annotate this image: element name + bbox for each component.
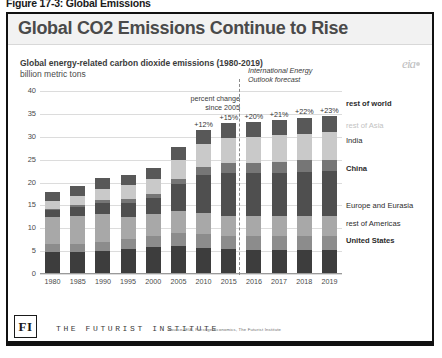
x-axis-tick-label: 2017 [267,277,292,286]
legend-item-rest-of-asia[interactable]: rest of Asia [346,121,384,130]
legend-item-rest-of-world[interactable]: rest of world [346,99,392,108]
bar-segment-rest-of-world [221,123,236,138]
bar-segment-rest-of-world [95,178,110,189]
bar-segment-rest-of-world [196,130,211,144]
y-axis-tick-label: 40 [0,86,36,95]
bar-segment-united-states [121,249,136,273]
bar-segment-india [297,160,312,171]
bar-segment-rest-of-americas [45,244,60,251]
bar-segment-europe-and-eurasia [171,211,186,233]
x-axis-tick-label: 2005 [166,277,191,286]
futurist-institute-logo: FI [14,315,37,338]
bar-2010[interactable] [196,130,211,273]
x-axis-tick-label: 2015 [216,277,241,286]
legend-item-rest-of-americas[interactable]: rest of Americas [346,219,400,228]
bar-segment-rest-of-world [146,168,161,179]
bar-2016[interactable] [246,122,261,273]
bar-segment-rest-of-americas [95,242,110,251]
bar-segment-rest-of-asia [196,144,211,167]
forecast-note: International Energy Outlook forecast [248,67,312,84]
chart-subtitle: billion metric tons [20,69,86,79]
x-axis-tick-label: 1980 [40,277,65,286]
chart-plot-area: 0510152025303540198019851990199520002005… [40,91,342,274]
bar-segment-rest-of-asia [146,179,161,194]
bar-segment-united-states [322,250,337,273]
bar-segment-rest-of-americas [70,244,85,252]
bar-segment-united-states [95,251,110,273]
x-axis-tick-label: 1990 [90,277,115,286]
y-axis-tick-label: 0 [0,269,36,278]
bar-2000[interactable] [146,168,161,273]
bar-segment-europe-and-eurasia [95,214,110,242]
slide-frame: Global CO2 Emissions Continue to Rise Gl… [6,12,434,346]
eia-logo-text: eia [402,56,415,71]
bar-segment-europe-and-eurasia [70,216,85,244]
bar-2018[interactable] [297,118,312,274]
bar-segment-europe-and-eurasia [322,216,337,236]
bar-segment-rest-of-world [272,120,287,136]
footer-rule [8,341,432,344]
figure-caption: Figure 17-3: Global Emissions [6,0,151,9]
bar-segment-india [196,167,211,175]
bar-segment-rest-of-americas [272,236,287,250]
bar-segment-china [297,172,312,216]
legend-item-europe-and-eurasia[interactable]: Europe and Eurasia [346,201,413,210]
bar-segment-rest-of-asia [322,132,337,159]
x-axis-line [40,273,342,274]
bar-segment-rest-of-americas [246,236,261,250]
bar-segment-china [171,184,186,211]
bar-segment-india [272,162,287,173]
bar-segment-rest-of-asia [221,138,236,163]
y-axis-tick-label: 15 [0,200,36,209]
legend-item-india[interactable]: India [346,136,362,145]
x-axis-tick-label: 2016 [241,277,266,286]
bar-segment-rest-of-world [70,186,85,196]
percent-change-label-2019: +23% [314,106,345,115]
y-axis-tick-label: 20 [0,178,36,187]
bar-segment-india [221,163,236,173]
bar-segment-rest-of-americas [322,236,337,250]
bar-segment-europe-and-eurasia [196,213,211,235]
bar-segment-rest-of-asia [95,189,110,200]
source-note: Source: EIA, Prestige Economics, The Fut… [168,327,281,332]
legend-item-china[interactable]: China [346,164,367,173]
bar-segment-united-states [246,250,261,273]
bar-segment-europe-and-eurasia [221,216,236,236]
bar-segment-rest-of-world [121,175,136,185]
chart-panel: Global energy-related carbon dioxide emi… [16,58,426,308]
bar-2015[interactable] [221,123,236,273]
legend-item-united-states[interactable]: United States [346,236,395,245]
bar-2019[interactable] [322,116,337,273]
bar-1995[interactable] [121,175,136,273]
bar-segment-united-states [297,250,312,273]
bar-segment-united-states [70,252,85,273]
bar-segment-rest-of-world [246,122,261,137]
eia-logo-dot [416,62,420,66]
bar-segment-united-states [196,248,211,273]
bar-segment-china [196,175,211,213]
bar-segment-united-states [45,252,60,274]
bar-segment-europe-and-eurasia [297,216,312,236]
y-axis-tick-label: 5 [0,246,36,255]
bar-segment-rest-of-asia [246,137,261,163]
bar-segment-rest-of-asia [297,134,312,161]
bar-2005[interactable] [171,147,186,273]
bar-segment-rest-of-world [297,118,312,134]
bar-segment-europe-and-eurasia [246,216,261,236]
bar-segment-china [221,173,236,216]
bar-segment-rest-of-americas [196,234,211,248]
bar-1980[interactable] [45,192,60,273]
bar-segment-rest-of-asia [121,185,136,199]
x-axis-tick-label: 1995 [116,277,141,286]
bar-segment-united-states [221,249,236,273]
bar-segment-india [322,160,337,172]
x-axis-tick-label: 2018 [292,277,317,286]
y-axis-tick-label: 10 [0,223,36,232]
bar-segment-china [70,207,85,216]
bar-2017[interactable] [272,120,287,273]
y-axis-tick-label: 35 [0,109,36,118]
bar-1990[interactable] [95,178,110,273]
bar-1985[interactable] [70,186,85,273]
chart-title: Global energy-related carbon dioxide emi… [20,58,263,68]
bar-segment-china [45,210,60,217]
